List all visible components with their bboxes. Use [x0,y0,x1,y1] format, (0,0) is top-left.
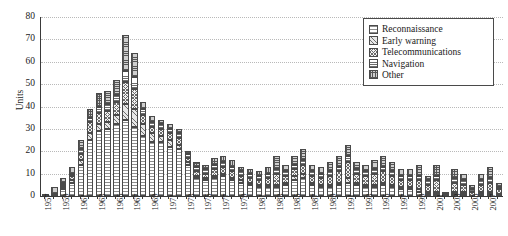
bar-segment [113,115,119,124]
stacked-bar [336,156,342,196]
x-axis-label-slot [138,200,147,236]
stacked-bar [167,124,173,196]
bar-segment [113,95,119,102]
x-axis-label-slot [191,200,200,236]
bar-column [85,17,94,196]
stacked-bar [176,129,182,196]
bar-segment [353,162,359,169]
x-axis-label-slot: 2007 [485,200,494,236]
bar-segment [291,156,297,165]
bar-segment [211,169,217,176]
bar-column [281,17,290,196]
x-axis-label-slot [458,200,467,236]
stacked-bar [104,91,110,196]
bar-segment [131,53,137,78]
x-axis-label-slot [156,200,165,236]
bar-column [68,17,77,196]
y-axis-tick-label: 30 [8,124,35,134]
stacked-bar [362,165,368,196]
bar-segment [380,156,386,167]
stacked-bar [416,165,422,196]
bar-column [112,17,121,196]
bar-segment [158,129,164,136]
bar-segment [478,174,484,181]
bar-segment [104,104,110,111]
bar-segment [291,169,297,176]
bar-segment [149,142,155,196]
bar-segment [345,156,351,163]
bar-segment [149,127,155,134]
bar-segment [327,176,333,185]
x-axis-label-slot [209,200,218,236]
bar-segment [104,91,110,104]
x-axis-label-slot: 1993 [360,200,369,236]
bar-segment [113,102,119,115]
x-axis-label-slot [262,200,271,236]
bar-segment [353,174,359,183]
x-axis-label-slot [405,200,414,236]
legend-item: Other [369,70,488,80]
x-axis-label-slot: 1963 [93,200,102,236]
bar-segment [96,113,102,124]
bar-segment [167,133,173,140]
stacked-bar [345,145,351,196]
x-axis-label-slot: 1959 [58,200,67,236]
x-axis-label-slot: 1967 [129,200,138,236]
bar-segment [282,165,288,172]
legend-swatch-icon [369,59,378,68]
bar-column [352,17,361,196]
bar-column [228,17,237,196]
bar-segment [122,104,128,120]
stacked-bar [193,162,199,196]
bar-column [148,17,157,196]
stacked-bar [69,167,75,196]
bar-column [201,17,210,196]
bar-column [94,17,103,196]
bar-segment [460,185,466,192]
stacked-bar [318,167,324,196]
x-axis-label-slot: 1971 [164,200,173,236]
bar-segment [104,129,110,196]
x-axis-label-slot: 1973 [182,200,191,236]
y-axis-tick-label: 70 [8,34,35,44]
x-axis-label-slot: 1997 [396,200,405,236]
x-axis-label-slot: 1983 [271,200,280,236]
x-axis-label-slot: 1975 [200,200,209,236]
bar-segment [131,89,137,109]
bar-segment [389,162,395,171]
bar-column [245,17,254,196]
bar-segment [211,158,217,165]
y-axis-tick-label: 20 [8,146,35,156]
bar-segment [140,102,146,109]
legend-swatch-icon [369,36,378,45]
legend-item: Telecommunications [369,47,488,57]
stacked-bar [131,53,137,196]
legend-swatch-icon [369,25,378,34]
stacked-bar [353,162,359,196]
bar-column [272,17,281,196]
x-axis-label-slot: 1957 [40,200,49,236]
bar-segment [487,167,493,178]
bar-column [77,17,86,196]
bar-segment [318,178,324,185]
bar-segment [433,165,439,176]
bar-segment [336,171,342,182]
x-axis-label-slot [244,200,253,236]
bar-segment [87,140,93,196]
bar-column [165,17,174,196]
x-axis-label-slot [476,200,485,236]
bar-segment [300,165,306,174]
legend-label: Other [382,70,404,80]
bar-segment [220,167,226,174]
bar-segment [220,156,226,163]
stacked-bar [256,171,262,196]
bar-segment [140,115,146,124]
bar-column [237,17,246,196]
stacked-bar [113,80,119,196]
x-axis-label-slot [440,200,449,236]
bar-column [41,17,50,196]
x-axis-label-slot [84,200,93,236]
x-axis-label-slot [387,200,396,236]
x-axis-label-slot [316,200,325,236]
bar-column [326,17,335,196]
